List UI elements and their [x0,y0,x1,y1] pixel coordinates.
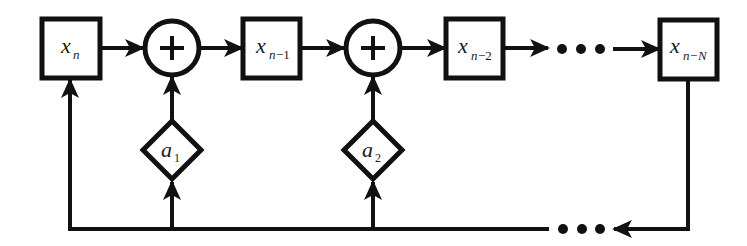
register-xn-minus-2: x n −2 [446,19,503,78]
svg-text:a: a [362,137,373,162]
svg-text:a: a [161,137,172,162]
svg-text:1: 1 [174,151,180,165]
svg-text:−2: −2 [478,48,492,63]
ellipsis-top [557,44,605,54]
svg-text:−1: −1 [276,47,290,62]
register-xn-minus-N: x n − N [660,20,717,79]
register-xn: x n [42,19,100,78]
svg-text:x: x [457,33,468,58]
svg-text:n: n [683,48,690,63]
coefficient-a1: a 1 [143,121,201,179]
svg-text:n: n [269,47,276,62]
svg-text:x: x [255,33,266,58]
svg-text:n: n [73,47,80,62]
svg-text:x: x [669,33,680,58]
adder-1 [145,21,199,75]
svg-text:2: 2 [375,151,381,165]
feedback-from-xnN [640,78,688,229]
svg-text:n: n [471,48,478,63]
svg-text:N: N [697,48,708,63]
register-xn-minus-1: x n −1 [243,19,300,78]
register-xn-label: x [60,33,71,58]
coefficient-a2: a 2 [344,121,402,179]
shift-register-diagram: x n x n −1 x n −2 x n − N a 1 [0,0,747,246]
adder-2 [346,21,400,75]
svg-text:−: − [690,48,697,63]
ellipsis-bottom [558,224,605,234]
